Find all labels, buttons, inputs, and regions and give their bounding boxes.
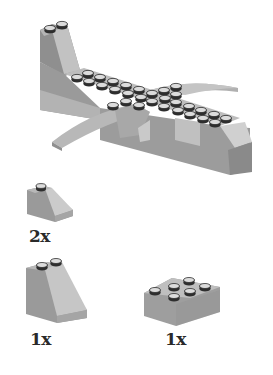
airplane-model-illustration	[0, 0, 273, 180]
slope-1x2-quantity: 2x	[29, 226, 50, 246]
slope-2x2-quantity: 1x	[30, 329, 51, 349]
brick-2x3-quantity: 1x	[165, 329, 186, 349]
instruction-canvas: 2x 1x 1x	[0, 0, 273, 375]
